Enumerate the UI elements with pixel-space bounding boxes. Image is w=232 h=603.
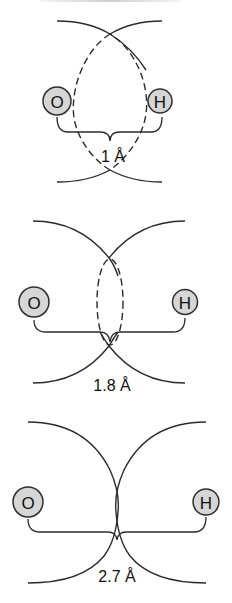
h-vdw-arc-top	[109, 221, 185, 258]
hydrogen-label: H	[200, 494, 212, 513]
distance-label: 1 Å	[101, 147, 125, 165]
hydrogen-label: H	[179, 294, 191, 313]
hydrogen-label: H	[154, 93, 166, 112]
distance-brace	[57, 117, 162, 141]
panel-3: O H 2.7 Å	[13, 422, 219, 585]
h-vdw-arc-bottom	[109, 332, 185, 383]
oxygen-label: O	[21, 494, 34, 513]
oxygen-label: O	[27, 294, 40, 313]
top-edge-shadow	[40, 0, 180, 2]
o-vdw-arc-bottom	[57, 170, 110, 182]
oh-vdw-contact-diagram: O H 1 Å O H 1.8 Å O H	[0, 0, 232, 603]
o-vdw-arc-bottom	[33, 332, 109, 383]
o-vdw-arc-top	[57, 21, 146, 70]
distance-label: 1.8 Å	[93, 376, 131, 394]
o-vdw-arc-top	[33, 221, 118, 276]
panel-1: O H 1 Å	[43, 21, 172, 182]
distance-brace	[34, 318, 185, 342]
h-vdw-arc-top	[110, 21, 162, 34]
oxygen-label: O	[50, 93, 63, 112]
panel-2: O H 1.8 Å	[19, 221, 198, 394]
distance-label: 2.7 Å	[98, 567, 136, 585]
h-vdw-arc-bottom	[110, 170, 162, 182]
